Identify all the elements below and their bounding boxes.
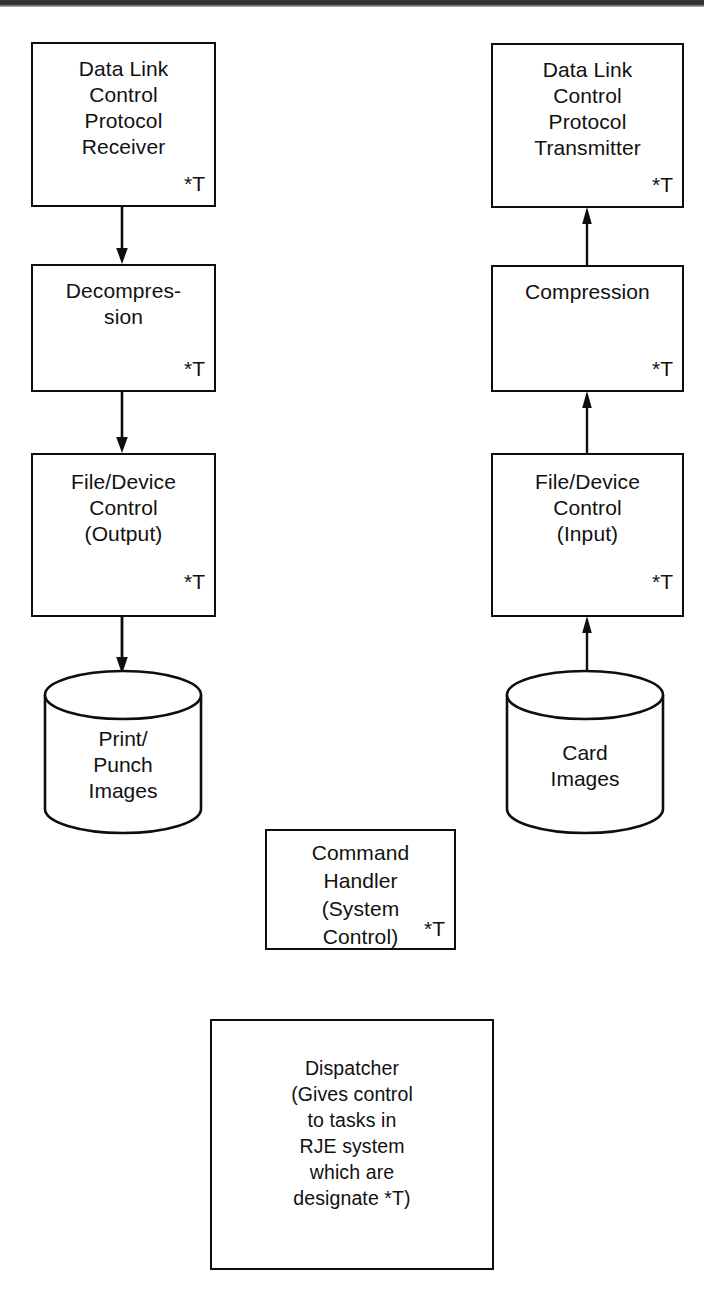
node-card-images-label: Card Images (504, 740, 666, 792)
edge-card-images-to-fdc-input (579, 616, 595, 674)
node-decompression-task-marker: *T (184, 358, 205, 380)
node-print-punch-images: Print/ Punch Images (42, 668, 204, 836)
node-dlc-receiver: Data Link Control Protocol Receiver *T (31, 42, 216, 207)
node-dlc-transmitter-task-marker: *T (652, 174, 673, 196)
node-dlc-transmitter-label: Data Link Control Protocol Transmitter (493, 57, 682, 161)
node-dlc-receiver-task-marker: *T (184, 173, 205, 195)
node-fdc-input-task-marker: *T (652, 571, 673, 593)
scan-edge-hairline (0, 6, 704, 7)
node-fdc-input-label: File/Device Control (Input) (493, 469, 682, 547)
node-fdc-output: File/Device Control (Output) *T (31, 453, 216, 617)
node-dlc-transmitter: Data Link Control Protocol Transmitter *… (491, 43, 684, 208)
edge-compression-to-transmitter (579, 207, 595, 265)
node-dispatcher-label: Dispatcher (Gives control to tasks in RJ… (212, 1055, 492, 1211)
edge-fdc-input-to-compression (579, 391, 595, 453)
node-dispatcher: Dispatcher (Gives control to tasks in RJ… (210, 1019, 494, 1270)
edge-receiver-to-decompression (114, 206, 130, 264)
node-fdc-output-label: File/Device Control (Output) (33, 469, 214, 547)
node-print-punch-images-label: Print/ Punch Images (42, 726, 204, 804)
node-card-images: Card Images (504, 668, 666, 836)
node-decompression-label: Decompres- sion (33, 278, 214, 330)
edge-fdc-output-to-print-punch (114, 616, 130, 674)
node-command-handler: Command Handler (System Control) *T (265, 829, 456, 950)
diagram-canvas: Data Link Control Protocol Receiver *T D… (0, 0, 704, 1308)
node-fdc-output-task-marker: *T (184, 571, 205, 593)
node-fdc-input: File/Device Control (Input) *T (491, 453, 684, 617)
node-compression-label: Compression (493, 279, 682, 305)
node-dlc-receiver-label: Data Link Control Protocol Receiver (33, 56, 214, 160)
node-compression: Compression *T (491, 265, 684, 392)
node-decompression: Decompres- sion *T (31, 264, 216, 392)
node-compression-task-marker: *T (652, 358, 673, 380)
edge-decompression-to-fdc-output (114, 391, 130, 453)
node-command-handler-task-marker: *T (424, 918, 445, 940)
